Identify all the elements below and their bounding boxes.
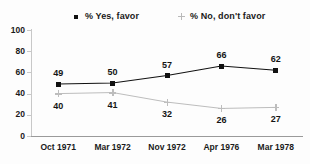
data-point-label: 27 [263,114,289,124]
data-point-label: 57 [154,60,180,70]
data-point-marker-plus [55,90,62,97]
data-point-marker-plus [109,89,116,96]
data-point-label: 66 [208,50,234,60]
data-point-marker-square [165,73,170,78]
data-point-marker-plus [218,105,225,112]
data-point-label: 41 [100,100,126,110]
data-point-label: 40 [45,101,71,111]
data-point-marker-square [56,82,61,87]
x-tick-label: Apr 1976 [191,142,251,152]
x-axis-labels: Oct 1971Mar 1972Nov 1972Apr 1976Mar 1978 [0,142,310,156]
data-point-marker-square [219,64,224,69]
x-tick-label: Mar 1972 [83,142,143,152]
chart-plot-area: 49505766624041322627 [0,0,310,164]
data-point-label: 26 [208,115,234,125]
data-point-label: 32 [154,109,180,119]
x-tick-label: Mar 1978 [246,142,306,152]
data-point-marker-plus [164,99,171,106]
x-tick-label: Nov 1972 [137,142,197,152]
data-point-label: 50 [100,67,126,77]
data-point-marker-square [273,68,278,73]
data-point-label: 49 [45,68,71,78]
data-point-marker-plus [272,104,279,111]
line-chart: % Yes, favor % No, don't favor 020406080… [0,0,310,164]
data-point-label: 62 [263,54,289,64]
series-lines [0,0,310,164]
x-tick-label: Oct 1971 [28,142,88,152]
data-point-marker-square [110,81,115,86]
